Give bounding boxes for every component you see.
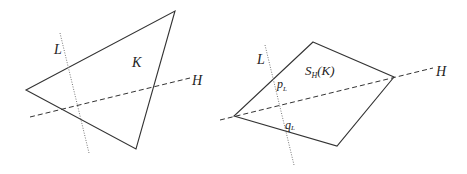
triangle-K	[26, 11, 175, 149]
label-p-L: pL	[276, 77, 287, 93]
label-L-left: L	[53, 42, 62, 57]
right-figure: L H SH(K) pL qL	[220, 42, 447, 165]
label-K: K	[131, 55, 142, 70]
symmetrization-diagram: L K H L H SH(K) pL qL	[0, 0, 467, 174]
left-figure: L K H	[26, 11, 203, 153]
line-H-left	[30, 78, 190, 117]
label-SH-K: SH(K)	[305, 63, 335, 80]
label-H-left: H	[191, 73, 203, 88]
line-L-left	[60, 33, 89, 153]
label-H-right: H	[435, 64, 447, 79]
label-q-L: qL	[285, 118, 295, 132]
line-L-right	[265, 45, 294, 165]
label-L-right: L	[256, 52, 265, 67]
